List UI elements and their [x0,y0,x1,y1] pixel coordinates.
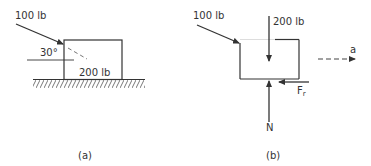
friction-force-label: Fr [297,85,306,98]
applied-force-arrow [197,25,239,43]
applied-force-label: 100 lb [15,10,46,21]
ground-surface [33,80,145,89]
angle-label: 30° [40,47,58,58]
weight-label: 200 lb [273,16,304,27]
free-body-diagram-figure: 100 lb 30° 200 lb (a) 100 lb 200 lb Fr N… [0,0,371,166]
caption-b: (b) [266,150,280,161]
acceleration-label: a [350,44,356,55]
normal-force-label: N [266,122,273,133]
figure-b: 100 lb 200 lb Fr N a (b) [193,10,356,161]
figure-a: 100 lb 30° 200 lb (a) [15,10,145,161]
caption-a: (a) [78,150,92,161]
force-line-of-action-dashed [68,48,87,59]
applied-force-label: 100 lb [193,10,224,21]
applied-force-arrow [16,24,63,44]
weight-label: 200 lb [79,67,110,78]
